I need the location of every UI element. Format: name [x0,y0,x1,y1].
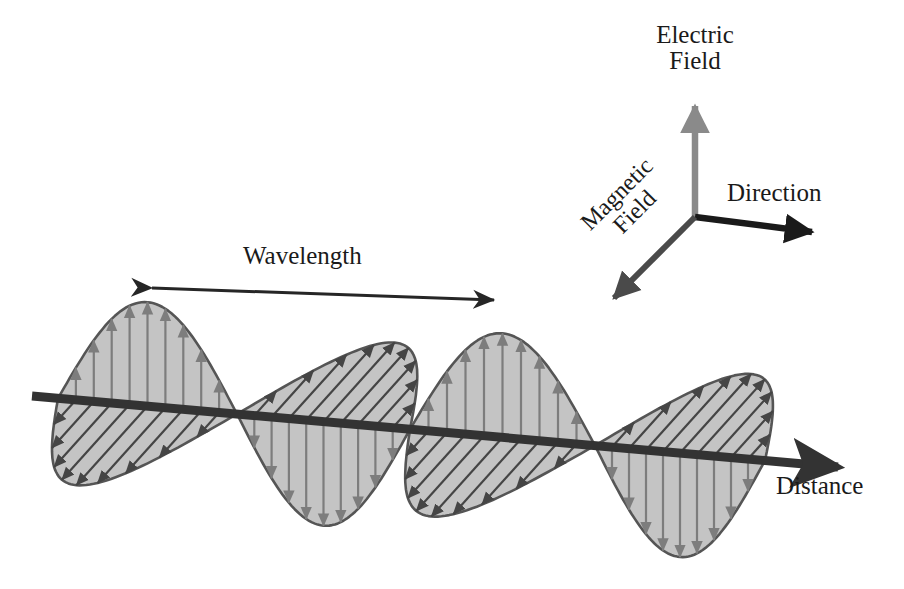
distance-label: Distance [776,473,863,499]
wavelength-arrow [152,288,494,300]
direction-axis-arrow [695,217,812,232]
wavelength-label: Wavelength [243,243,362,269]
em-wave-svg [0,0,904,589]
direction-label: Direction [727,180,821,206]
em-wave-figure: Electric Field Magnetic Field Direction … [0,0,904,589]
wavelength-indicator [152,288,494,300]
electric-field-label: Electric Field [630,22,760,75]
